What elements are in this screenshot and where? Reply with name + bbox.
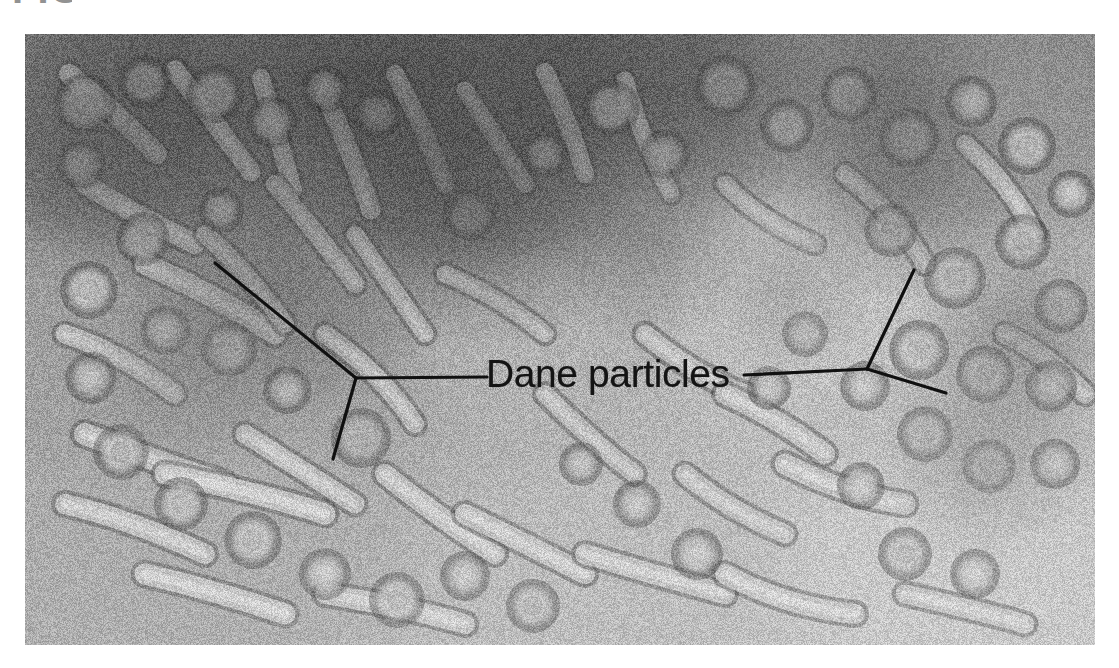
electron-micrograph-plate [25,34,1095,645]
clipped-caption-remnant: FIG [12,0,72,12]
figure-root: FIG Dane particles [0,0,1119,668]
micrograph-image [25,34,1095,645]
